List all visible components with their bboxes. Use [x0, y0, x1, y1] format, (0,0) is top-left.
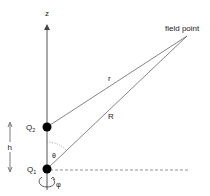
field-point-label: field point — [165, 24, 200, 33]
r-label: r — [108, 74, 111, 83]
theta-label: θ — [52, 152, 56, 159]
charge-q1 — [43, 165, 52, 174]
r-line — [47, 36, 187, 127]
q1-label: Q1 — [27, 165, 36, 175]
theta-arc — [47, 142, 66, 150]
h-label: h — [8, 143, 12, 152]
charge-field-diagram: z field point r R θ Q2 Q1 h φ — [0, 0, 210, 196]
z-axis-label: z — [45, 9, 49, 18]
R-line — [47, 36, 187, 169]
R-label: R — [108, 112, 114, 121]
q2-label: Q2 — [26, 123, 35, 133]
charge-q2 — [43, 123, 52, 132]
phi-label: φ — [56, 180, 61, 189]
